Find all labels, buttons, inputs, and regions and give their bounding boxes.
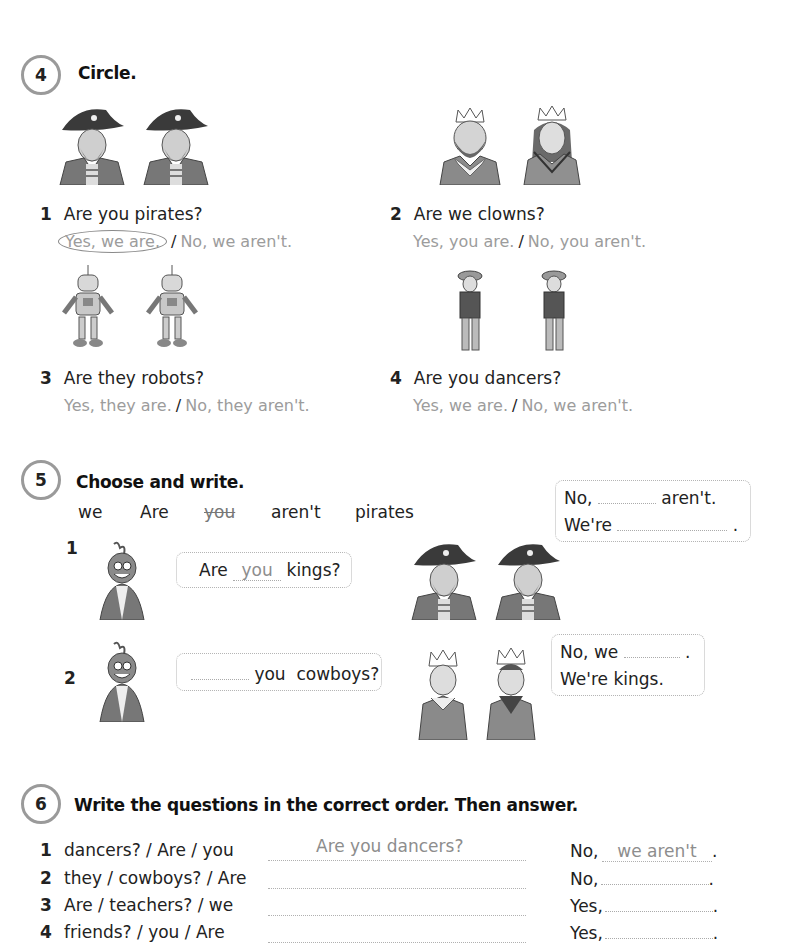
question-answer-line[interactable]: [268, 860, 526, 861]
reply-prefix: No, we: [560, 642, 618, 662]
question-answer-line[interactable]: [268, 915, 526, 916]
word-bank-word: we: [78, 502, 102, 522]
exercise-4-answer-options-3: Yes, they are./No, they aren't.: [64, 396, 310, 415]
speech-bubble-question-1: Are you kings?: [176, 552, 352, 588]
kings-illustration: [415, 648, 555, 740]
answer-blank-filled[interactable]: you: [233, 560, 281, 581]
question-answer-line[interactable]: [268, 942, 526, 943]
exercise-4-number-badge: 4: [21, 55, 61, 95]
speech-bubble-reply-1: No, aren't. We're .: [555, 480, 751, 542]
exercise-5-title: Choose and write.: [76, 472, 244, 492]
robots-illustration: [58, 263, 208, 348]
slash-separator: /: [171, 232, 176, 251]
question-text: Are you dancers?: [414, 368, 561, 388]
exercise-6-row-4-prompt: 4friends? / you / Are: [40, 922, 225, 942]
answer-blank[interactable]: [598, 503, 656, 504]
option-yes[interactable]: Yes, we are.: [58, 230, 167, 253]
answer-end: .: [709, 869, 714, 889]
item-number: 1: [40, 840, 64, 860]
exercise-6-row-1-prompt: 1dancers? / Are / you: [40, 840, 234, 860]
option-yes[interactable]: Yes, you are.: [413, 232, 514, 251]
item-number: 4: [390, 368, 402, 388]
exercise-4-title: Circle.: [78, 63, 136, 83]
speech-bubble-reply-2: No, we . We're kings.: [551, 634, 705, 696]
exercise-4-question-2: 2Are we clowns?: [390, 204, 545, 224]
item-number: 3: [40, 368, 52, 388]
item-number: 1: [40, 204, 52, 224]
exercise-number: 4: [35, 65, 47, 85]
prompt-text: dancers? / Are / you: [64, 840, 234, 860]
option-no[interactable]: No, you aren't.: [528, 232, 646, 251]
word-bank-word: Are: [140, 502, 169, 522]
item-number: 2: [390, 204, 402, 224]
exercise-6-row-3-answer: Yes,.: [570, 896, 718, 916]
pirates-illustration-2: [410, 535, 570, 620]
answer-blank[interactable]: [605, 938, 713, 939]
answer-end: .: [712, 841, 717, 861]
exercise-number: 6: [35, 794, 47, 814]
word-bank-word-crossed: you: [204, 502, 235, 522]
reply-line-1: No, we .: [560, 639, 704, 666]
exercise-6-row-2-answer: No,.: [570, 869, 714, 889]
reply-suffix: aren't.: [661, 488, 716, 508]
king-and-queen-illustration: [438, 100, 598, 185]
exercise-number: 5: [35, 470, 47, 490]
pirates-illustration: [58, 100, 218, 185]
question-text: Are they robots?: [64, 368, 204, 388]
slash-separator: /: [176, 396, 181, 415]
question-prefix: Are: [199, 560, 228, 580]
reply-line-2: We're kings.: [560, 666, 704, 693]
question-text: Are we clowns?: [414, 204, 545, 224]
answer-end: .: [713, 896, 718, 916]
answer-blank[interactable]: [601, 884, 709, 885]
answer-blank-filled[interactable]: we aren't: [602, 841, 712, 862]
item-number: 4: [40, 922, 64, 942]
answer-blank[interactable]: [617, 530, 727, 531]
answer-prefix: No,: [570, 841, 599, 861]
girl-character-illustration-2: [96, 640, 156, 722]
prompt-text: they / cowboys? / Are: [64, 868, 247, 888]
answer-end: .: [713, 923, 718, 943]
answer-blank[interactable]: [624, 657, 680, 658]
item-number: 3: [40, 895, 64, 915]
option-yes[interactable]: Yes, we are.: [413, 396, 508, 415]
answer-prefix: No,: [570, 869, 599, 889]
exercise-6-row-2-prompt: 2they / cowboys? / Are: [40, 868, 247, 888]
answer-prefix: Yes,: [570, 896, 603, 916]
cowboys-illustration: [448, 266, 578, 351]
prompt-text: friends? / you / Are: [64, 922, 225, 942]
reply-prefix: We're: [564, 515, 612, 535]
option-no[interactable]: No, we aren't.: [180, 232, 292, 251]
reply-suffix: .: [733, 515, 738, 535]
answer-prefix: Yes,: [570, 923, 603, 943]
exercise-4-answer-options-4: Yes, we are./No, we aren't.: [413, 396, 633, 415]
option-yes[interactable]: Yes, they are.: [64, 396, 172, 415]
exercise-4-answer-options-1: Yes, we are./No, we aren't.: [64, 232, 292, 251]
exercise-6-title: Write the questions in the correct order…: [74, 795, 578, 815]
exercise-6-row-1-answer: No, we aren't.: [570, 841, 717, 862]
word-bank-word: pirates: [355, 502, 414, 522]
exercise-4-question-1: 1Are you pirates?: [40, 204, 203, 224]
answer-blank[interactable]: [605, 911, 713, 912]
option-no[interactable]: No, they aren't.: [185, 396, 310, 415]
girl-character-illustration: [96, 540, 156, 620]
option-no[interactable]: No, we aren't.: [521, 396, 633, 415]
question-suffix: kings?: [287, 560, 341, 580]
reply-prefix: No,: [564, 488, 593, 508]
exercise-5-number-badge: 5: [21, 460, 61, 500]
question-suffix: you cowboys?: [254, 664, 379, 684]
exercise-6-row-3-prompt: 3Are / teachers? / we: [40, 895, 233, 915]
exercise-4-answer-options-2: Yes, you are./No, you aren't.: [413, 232, 646, 251]
exercise-5-item-1-number: 1: [66, 538, 78, 558]
speech-bubble-question-2: you cowboys?: [176, 653, 382, 691]
exercise-5-item-2-number: 2: [64, 668, 76, 688]
item-number: 2: [40, 868, 64, 888]
answer-blank[interactable]: [191, 679, 249, 680]
slash-separator: /: [518, 232, 523, 251]
exercise-4-question-3: 3Are they robots?: [40, 368, 204, 388]
question-written-answer: Are you dancers?: [316, 836, 463, 856]
question-answer-line[interactable]: [268, 888, 526, 889]
slash-separator: /: [512, 396, 517, 415]
question-text: Are you pirates?: [64, 204, 203, 224]
exercise-4-question-4: 4Are you dancers?: [390, 368, 561, 388]
